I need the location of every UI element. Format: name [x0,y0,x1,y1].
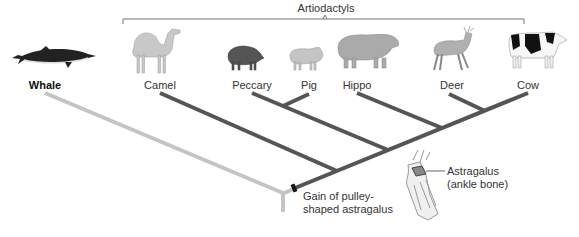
whale-branch [45,93,296,212]
artiodactyl-bracket [123,15,524,24]
cow-icon [509,32,567,68]
camel-icon [133,29,180,73]
hippo-branch [357,93,442,128]
astragalus-line1: Astragalus [447,165,508,178]
pig-branch [283,94,309,106]
taxon-label-deer: Deer [440,79,464,91]
trait-gain-note: Gain of pulley- shaped astragalus [303,190,393,216]
taxon-label-peccary: Peccary [232,79,272,91]
pig-icon [290,47,323,70]
taxon-label-whale: Whale [29,79,61,91]
astragalus-line2: (ankle bone) [447,178,508,191]
taxon-label-hippo: Hippo [343,79,372,91]
taxon-label-cow: Cow [517,79,539,91]
trait-gain-line2: shaped astragalus [303,203,393,216]
trait-gain-line1: Gain of pulley- [303,190,393,203]
clade-title: Artiodactyls [298,2,355,14]
deer-branch [449,94,485,111]
camel-branch [160,93,337,171]
ankle-bone-icon [407,150,445,220]
phylogenetic-tree [0,0,579,237]
hippo-icon [338,34,399,68]
taxon-label-pig: Pig [301,79,317,91]
astragalus-note: Astragalus (ankle bone) [447,165,508,191]
taxon-label-camel: Camel [144,79,176,91]
whale-icon [12,46,96,68]
peccary-icon [228,46,264,70]
deer-icon [434,26,474,70]
